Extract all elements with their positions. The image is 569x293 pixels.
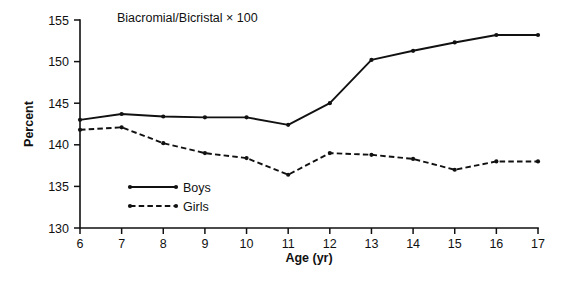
legend-marker-end-boys: [174, 185, 178, 189]
data-point-girls-17: [536, 159, 540, 163]
data-point-boys-10: [244, 115, 248, 119]
data-point-girls-13: [369, 153, 373, 157]
legend-label-boys: Boys: [183, 181, 211, 195]
data-point-girls-12: [328, 151, 332, 155]
data-point-boys-11: [286, 123, 290, 127]
data-point-girls-11: [286, 173, 290, 177]
line-chart-canvas: 130135140145150155 67891011121314151617 …: [0, 0, 569, 293]
data-point-girls-10: [244, 156, 248, 160]
chart-figure: 130135140145150155 67891011121314151617 …: [0, 0, 569, 293]
legend-marker-end-girls: [174, 204, 178, 208]
data-point-boys-6: [78, 118, 82, 122]
x-axis-tick-label: 6: [77, 237, 84, 251]
x-axis-tick-label: 13: [365, 237, 379, 251]
chart-legend: BoysGirls: [128, 181, 211, 214]
x-axis-tick-label: 12: [323, 237, 337, 251]
y-axis-title: Percent: [22, 100, 36, 147]
data-series-group: [78, 33, 540, 177]
x-axis-tick-label: 7: [118, 237, 125, 251]
series-line-girls: [80, 127, 538, 174]
axis-spine: [80, 20, 538, 228]
data-point-girls-14: [411, 157, 415, 161]
data-point-girls-7: [120, 125, 124, 129]
x-axis-tick-label: 10: [240, 237, 254, 251]
legend-item-boys: Boys: [128, 181, 211, 195]
x-axis-tick-label: 9: [201, 237, 208, 251]
series-girls: [78, 125, 540, 177]
x-axis-tick-label: 16: [489, 237, 503, 251]
legend-marker-start-boys: [128, 185, 132, 189]
x-axis-tick-label: 14: [406, 237, 420, 251]
data-point-girls-15: [453, 168, 457, 172]
legend-marker-start-girls: [128, 204, 132, 208]
legend-item-girls: Girls: [128, 200, 209, 214]
y-axis-tick-label: 130: [48, 222, 69, 236]
data-point-boys-12: [328, 101, 332, 105]
chart-title: Biacromial/Bicristal × 100: [117, 11, 258, 25]
x-axis-title: Age (yr): [285, 251, 332, 265]
data-point-boys-13: [369, 58, 373, 62]
y-axis-tick-label: 140: [48, 138, 69, 152]
x-axis-tick-labels: 67891011121314151617: [77, 237, 545, 251]
data-point-boys-14: [411, 49, 415, 53]
data-point-boys-9: [203, 115, 207, 119]
x-axis-tick-label: 17: [531, 237, 545, 251]
x-axis-tick-label: 15: [448, 237, 462, 251]
data-point-boys-7: [120, 112, 124, 116]
x-axis-ticks: [80, 228, 538, 234]
data-point-girls-9: [203, 151, 207, 155]
x-axis-tick-label: 8: [160, 237, 167, 251]
data-point-boys-17: [536, 33, 540, 37]
series-line-boys: [80, 35, 538, 125]
data-point-girls-8: [161, 141, 165, 145]
data-point-boys-16: [494, 33, 498, 37]
y-axis-tick-label: 135: [48, 180, 69, 194]
y-axis-tick-label: 150: [48, 55, 69, 69]
data-point-boys-15: [453, 40, 457, 44]
data-point-girls-6: [78, 128, 82, 132]
data-point-girls-16: [494, 159, 498, 163]
x-axis-tick-label: 11: [282, 237, 295, 251]
y-axis-tick-labels: 130135140145150155: [48, 14, 69, 236]
y-axis-ticks: [74, 20, 80, 228]
data-point-boys-8: [161, 114, 165, 118]
y-axis-tick-label: 155: [48, 14, 69, 28]
series-boys: [78, 33, 540, 127]
legend-label-girls: Girls: [183, 200, 209, 214]
y-axis-tick-label: 145: [48, 97, 69, 111]
